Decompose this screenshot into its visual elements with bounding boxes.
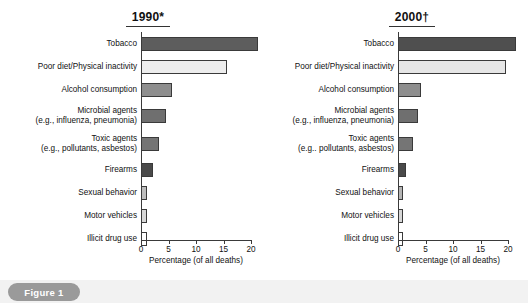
bar-track [398, 55, 528, 78]
category-label: Tobacco [264, 39, 398, 48]
bar-track [398, 104, 528, 127]
chart-panel-2000: 2000† Tobacco Poor diet/Physical inactiv… [264, 0, 528, 278]
category-label: Sexual behavior [0, 188, 141, 197]
bar-row: Poor diet/Physical inactivity [0, 55, 264, 78]
category-label: Toxic agents (e.g., pollutants, asbestos… [0, 134, 141, 153]
bar-track [398, 204, 528, 227]
bar-row: Toxic agents (e.g., pollutants, asbestos… [0, 132, 264, 155]
bar-track [141, 32, 264, 55]
y-axis-line [398, 32, 399, 240]
bar-toxic-agents [141, 137, 159, 151]
bar-track [398, 78, 528, 101]
x-tick-label: 5 [423, 245, 428, 254]
category-label: Sexual behavior [264, 188, 398, 197]
x-tick-label: 10 [448, 245, 457, 254]
category-label: Illicit drug use [264, 234, 398, 243]
category-label: Motor vehicles [0, 211, 141, 220]
category-label-sub: (e.g., influenza, pneumonia) [264, 116, 394, 125]
category-label-sub: (e.g., pollutants, asbestos) [0, 144, 137, 153]
category-label-main: Alcohol consumption [318, 85, 394, 94]
bar-track [141, 204, 264, 227]
x-axis-title: Percentage (of all deaths) [141, 256, 251, 265]
category-label-sub: (e.g., influenza, pneumonia) [0, 116, 137, 125]
category-label-main: Microbial agents [334, 106, 394, 115]
x-tick [398, 240, 399, 244]
chart-title-1990-text: 1990* [126, 10, 170, 27]
bar-rows-1990: Tobacco Poor diet/Physical inactivity [0, 32, 264, 240]
bar-row: Microbial agents (e.g., influenza, pneum… [0, 104, 264, 127]
bar-tobacco [398, 37, 516, 51]
x-axis-1990: 0 5 10 15 20 Percentage (of all deaths) [141, 240, 251, 278]
bar-track [141, 104, 264, 127]
x-tick-label: 10 [191, 245, 200, 254]
chart-title-2000-text: 2000† [389, 10, 435, 27]
x-tick-label: 15 [219, 245, 228, 254]
bar-track [141, 55, 264, 78]
x-tick [251, 240, 252, 244]
y-axis-line [141, 32, 142, 240]
bar-poor-diet [398, 60, 506, 74]
category-label: Alcohol consumption [264, 85, 398, 94]
category-label: Motor vehicles [264, 211, 398, 220]
category-label-sub: (e.g.. pollutants, asbestos) [264, 144, 394, 153]
category-label: Firearms [264, 165, 398, 174]
category-label: Microbial agents (e.g., influenza, pneum… [264, 106, 398, 125]
x-tick-label: 0 [396, 245, 401, 254]
category-label: Firearms [0, 165, 141, 174]
category-label: Alcohol consumption [0, 85, 141, 94]
bar-row: Sexual behavior [0, 181, 264, 204]
category-label: Toxic agents (e.g.. pollutants, asbestos… [264, 134, 398, 153]
x-tick [224, 240, 225, 244]
x-tick [169, 240, 170, 244]
plot-area-1990: Tobacco Poor diet/Physical inactivity [0, 32, 264, 278]
figure-container: 1990* Tobacco Poor diet/Physical inactiv… [0, 0, 528, 303]
bar-track [398, 181, 528, 204]
bar-microbial-agents [141, 109, 166, 123]
bar-row: Firearms [0, 158, 264, 181]
x-tick [481, 240, 482, 244]
x-axis-2000: 0 5 10 15 20 Percentage (of all deaths) [398, 240, 508, 278]
category-label-main: Sexual behavior [335, 188, 394, 197]
category-label: Illicit drug use [0, 234, 141, 243]
x-tick-label: 20 [503, 245, 512, 254]
bar-track [141, 158, 264, 181]
category-label-main: Toxic agents [348, 134, 394, 143]
x-tick [508, 240, 509, 244]
bar-firearms [398, 163, 406, 177]
category-label-main: Illicit drug use [344, 234, 394, 243]
category-label: Poor diet/Physical inactivity [264, 62, 398, 71]
bar-track [141, 78, 264, 101]
x-tick-label: 5 [166, 245, 171, 254]
x-tick-label: 0 [139, 245, 144, 254]
bar-row: Alcohol consumption [264, 78, 528, 101]
bar-row: Sexual behavior [264, 181, 528, 204]
bar-track [141, 181, 264, 204]
bar-tobacco [141, 37, 258, 51]
category-label-main: Tobacco [364, 39, 395, 48]
category-label-main: Alcohol consumption [61, 85, 137, 94]
category-label-main: Firearms [362, 165, 394, 174]
category-label-main: Microbial agents [77, 106, 137, 115]
category-label-main: Poor diet/Physical inactivity [295, 62, 394, 71]
bar-rows-2000: Tobacco Poor diet/Physical inactivity [264, 32, 528, 240]
bar-row: Motor vehicles [264, 204, 528, 227]
bar-microbial-agents [398, 109, 418, 123]
chart-title-1990: 1990* [0, 10, 264, 27]
figure-number-badge: Figure 1 [8, 283, 80, 301]
category-label-main: Poor diet/Physical inactivity [38, 62, 137, 71]
bar-row: Poor diet/Physical inactivity [264, 55, 528, 78]
category-label-main: Tobacco [107, 39, 138, 48]
bar-row: Toxic agents (e.g.. pollutants, asbestos… [264, 132, 528, 155]
x-axis-title: Percentage (of all deaths) [398, 256, 508, 265]
chart-title-2000: 2000† [264, 10, 528, 27]
bar-row: Motor vehicles [0, 204, 264, 227]
bar-firearms [141, 163, 153, 177]
bar-poor-diet [141, 60, 227, 74]
bar-track [141, 132, 264, 155]
category-label-main: Motor vehicles [341, 211, 394, 220]
category-label-main: Motor vehicles [84, 211, 137, 220]
category-label: Poor diet/Physical inactivity [0, 62, 141, 71]
x-tick [141, 240, 142, 244]
x-tick [196, 240, 197, 244]
bar-alcohol [141, 83, 172, 97]
